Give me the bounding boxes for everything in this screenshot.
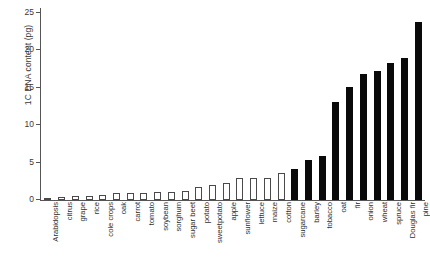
bar-slot [315, 13, 329, 200]
y-axis-tick: 15 [36, 87, 40, 88]
bar [291, 169, 298, 200]
x-axis-label-slot: sunflower [233, 202, 247, 266]
x-axis-tick-labels: Arabidopsiscitrusgrapericecole cropsoakc… [41, 202, 425, 266]
y-axis-tick: 10 [36, 124, 40, 125]
x-axis-label-slot: sorghum [164, 202, 178, 266]
bar [154, 192, 161, 200]
bar [58, 197, 65, 200]
bar [44, 198, 51, 200]
bar-slot [411, 13, 425, 200]
bar-slot [247, 13, 261, 200]
x-axis-label-slot: carrot [123, 202, 137, 266]
bar [346, 87, 353, 200]
y-axis-tick: 25 [36, 12, 40, 13]
bar [332, 102, 339, 200]
bar-slot [68, 13, 82, 200]
plot-area: 0510152025 [41, 13, 425, 200]
bar [415, 22, 422, 200]
y-axis-tick: 20 [36, 49, 40, 50]
bar-series [41, 13, 425, 200]
y-axis-tick-mark [36, 87, 40, 88]
y-axis-tick-label: 5 [29, 157, 34, 167]
bar [387, 63, 394, 200]
bar [236, 178, 243, 200]
bar [374, 71, 381, 200]
x-axis-tick-label: pine [421, 202, 430, 216]
x-axis-label-slot: spruce [384, 202, 398, 266]
bar [319, 156, 326, 200]
y-axis-tick-mark [36, 162, 40, 163]
x-axis-label-slot: maize [261, 202, 275, 266]
bar [401, 58, 408, 200]
bar [250, 178, 257, 200]
x-axis-label-slot: oat [329, 202, 343, 266]
bar-slot [123, 13, 137, 200]
x-axis-label-slot: sweetpotato [206, 202, 220, 266]
y-axis-tick-label: 25 [25, 7, 34, 17]
x-axis-label-slot: sugarcane [288, 202, 302, 266]
x-axis-label-slot: grape [68, 202, 82, 266]
bar-slot [370, 13, 384, 200]
x-axis-label-slot: soybean [151, 202, 165, 266]
bar-slot [41, 13, 55, 200]
bar-slot [96, 13, 110, 200]
bar-slot [261, 13, 275, 200]
y-axis-tick-mark [36, 49, 40, 50]
x-axis-label-slot: citrus [55, 202, 69, 266]
bar [278, 173, 285, 200]
x-axis-label-slot: sugar beet [178, 202, 192, 266]
bar [113, 193, 120, 200]
bar-slot [274, 13, 288, 200]
x-axis-label-slot: pine [411, 202, 425, 266]
bar-slot [233, 13, 247, 200]
x-axis-label-slot: cole crops [96, 202, 110, 266]
bar-slot [82, 13, 96, 200]
x-axis-label-slot: lettuce [247, 202, 261, 266]
bar-slot [343, 13, 357, 200]
y-axis-tick: 5 [36, 162, 40, 163]
bar [209, 185, 216, 200]
bar [264, 178, 271, 200]
bar-slot [164, 13, 178, 200]
bar [99, 195, 106, 200]
x-axis-label-slot: Arabidopsis [41, 202, 55, 266]
bar [140, 193, 147, 200]
y-axis-tick-label: 10 [25, 119, 34, 129]
x-axis-label-slot: wheat [370, 202, 384, 266]
x-axis-label-slot: fir [343, 202, 357, 266]
bar-slot [302, 13, 316, 200]
y-axis-tick-label: 0 [29, 194, 34, 204]
y-axis-tick-mark [36, 124, 40, 125]
bar [182, 191, 189, 200]
x-axis-label-slot: barley [302, 202, 316, 266]
y-axis-tick-label: 20 [25, 44, 34, 54]
x-axis-label-slot: tobacco [315, 202, 329, 266]
x-axis-label-slot: onion [357, 202, 371, 266]
bar-slot [357, 13, 371, 200]
x-axis-label-slot: potato [192, 202, 206, 266]
bar-slot [55, 13, 69, 200]
x-axis-label-slot: tomato [137, 202, 151, 266]
bar-slot [384, 13, 398, 200]
x-axis-label-slot: rice [82, 202, 96, 266]
x-axis-label-slot: Douglas fir [398, 202, 412, 266]
bar-slot [137, 13, 151, 200]
bar [195, 187, 202, 200]
x-axis-label-slot: oak [110, 202, 124, 266]
y-axis-tick-mark [36, 199, 40, 200]
x-axis-line [40, 200, 425, 201]
bar-slot [219, 13, 233, 200]
bar-slot [192, 13, 206, 200]
bar [168, 192, 175, 200]
bar [305, 160, 312, 200]
bar [72, 196, 79, 200]
bar [223, 183, 230, 200]
bar-slot [110, 13, 124, 200]
bar-slot [398, 13, 412, 200]
bar-slot [288, 13, 302, 200]
y-axis-tick-mark [36, 12, 40, 13]
bar-slot [178, 13, 192, 200]
x-axis-label-slot: apple [219, 202, 233, 266]
y-axis-tick: 0 [36, 199, 40, 200]
